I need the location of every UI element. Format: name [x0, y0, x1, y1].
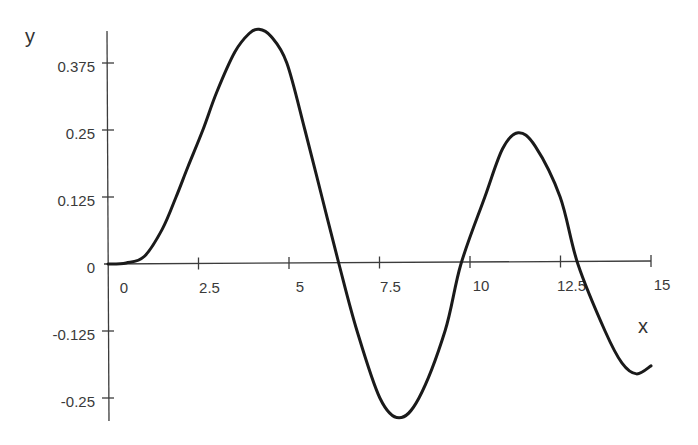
y-tick-label: -0.125 [52, 326, 95, 343]
y-ticks: -0.25-0.12500.1250.250.375 [52, 58, 114, 410]
y-tick-label: 0.125 [57, 192, 95, 209]
x-axis-title: x [638, 315, 648, 337]
x-tick-label: 15 [654, 276, 671, 293]
y-tick-label: 0.25 [66, 125, 95, 142]
y-axis-line [107, 31, 109, 421]
x-tick-label: 2.5 [199, 279, 220, 296]
y-tick-label: -0.25 [61, 393, 95, 410]
line-chart: 02.557.51012.515 -0.25-0.12500.1250.250.… [0, 0, 698, 445]
y-tick-label: 0 [87, 259, 95, 276]
y-tick-label: 0.375 [57, 58, 95, 75]
x-tick-label: 5 [296, 278, 304, 295]
series-line [108, 29, 651, 418]
x-tick-label: 0 [120, 279, 128, 296]
x-tick-label: 10 [473, 277, 490, 294]
y-axis-title: y [25, 25, 35, 47]
series-group [108, 29, 651, 418]
x-tick-label: 7.5 [380, 278, 401, 295]
x-axis-line [104, 261, 651, 264]
